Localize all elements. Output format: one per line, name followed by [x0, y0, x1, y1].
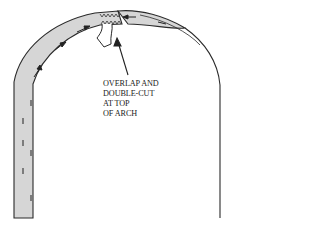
- annotation-line-2: DOUBLE-CUT: [103, 89, 159, 99]
- curled-flap: [97, 24, 112, 47]
- annotation-line-1: OVERLAP AND: [103, 79, 159, 89]
- annotation-line-3: AT TOP: [103, 99, 159, 109]
- overlap-annotation: OVERLAP AND DOUBLE-CUT AT TOP OF ARCH: [103, 79, 159, 119]
- annotation-line-4: OF ARCH: [103, 109, 159, 119]
- arch-outline-right: [185, 28, 220, 218]
- pointer-arrow: [114, 38, 128, 75]
